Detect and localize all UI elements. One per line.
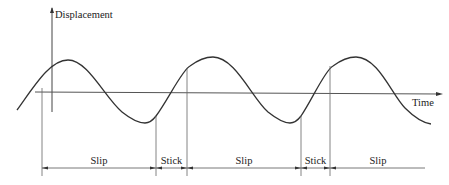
phase-label-slip-1: Slip: [91, 155, 108, 166]
y-axis-label: Displacement: [55, 9, 113, 20]
x-axis-label: Time: [412, 97, 434, 108]
displacement-curve: [17, 57, 431, 124]
phase-dimension-line: [42, 167, 425, 170]
phase-labels: Slip Stick Slip Stick Slip: [91, 155, 387, 166]
x-axis-arrow-icon: [436, 92, 443, 96]
phase-boundaries: [42, 66, 330, 176]
phase-label-stick-1: Stick: [161, 155, 183, 166]
y-axis-arrow-icon: [50, 7, 54, 13]
x-axis: Time: [35, 92, 443, 108]
y-axis: Displacement: [50, 7, 113, 112]
phase-label-slip-2: Slip: [236, 155, 253, 166]
phase-label-slip-3: Slip: [370, 155, 387, 166]
stick-slip-diagram: Displacement Time Slip Stick Slip Stick: [0, 0, 449, 185]
phase-label-stick-2: Stick: [305, 155, 327, 166]
